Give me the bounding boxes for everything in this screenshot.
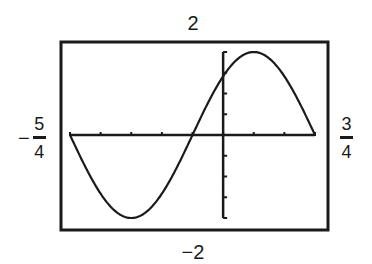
ymax-label: 2 — [173, 13, 213, 33]
fraction-bar — [33, 136, 46, 139]
xmin-label: − 5 4 — [18, 115, 46, 161]
xmin-sign: − — [18, 128, 30, 148]
fraction-bar — [340, 136, 353, 139]
xmax-denominator: 4 — [341, 143, 351, 161]
graph-plot — [0, 0, 372, 264]
xmin-numerator: 5 — [34, 115, 44, 133]
xmin-fraction: 5 4 — [33, 115, 46, 161]
xmax-fraction: 3 4 — [340, 115, 353, 161]
ymin-label: −2 — [168, 242, 218, 262]
xmax-numerator: 3 — [341, 115, 351, 133]
xmax-label: 3 4 — [340, 115, 353, 161]
xmin-denominator: 4 — [34, 143, 44, 161]
